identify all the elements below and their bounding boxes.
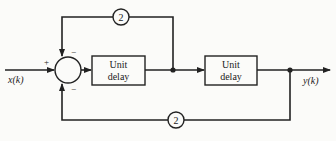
unit-delay-block-2: Unit delay bbox=[205, 56, 257, 85]
delay2-line1: Unit bbox=[222, 59, 240, 70]
bottom-feedback-line-left bbox=[62, 84, 168, 120]
top-feedback-line-left bbox=[62, 17, 113, 56]
summing-junction bbox=[55, 57, 81, 83]
unit-delay-block-1: Unit delay bbox=[92, 56, 145, 85]
block-diagram: x(k) + − − Unit delay Unit delay y(k) 2 … bbox=[0, 0, 336, 141]
gain-bottom-value: 2 bbox=[174, 115, 179, 126]
output-label: y(k) bbox=[302, 75, 319, 87]
input-label: x(k) bbox=[7, 74, 24, 86]
minus-sign-top: − bbox=[71, 47, 76, 57]
delay2-line2: delay bbox=[220, 71, 242, 82]
gain-top-value: 2 bbox=[119, 12, 124, 23]
plus-sign: + bbox=[44, 57, 49, 67]
delay1-line2: delay bbox=[108, 71, 130, 82]
minus-sign-bottom: − bbox=[71, 84, 76, 94]
delay1-line1: Unit bbox=[110, 59, 128, 70]
